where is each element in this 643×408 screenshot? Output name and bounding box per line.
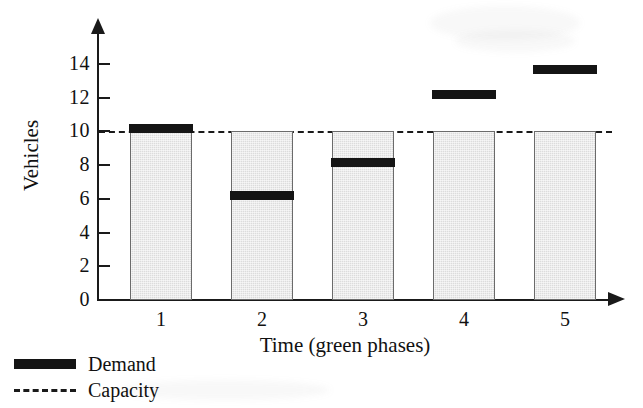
legend-item-capacity: Capacity (14, 378, 244, 404)
y-tick-label: 12 (48, 87, 90, 107)
y-tick-label: 2 (48, 255, 90, 275)
capacity-bar (534, 131, 596, 300)
y-tick-label-wrap: 10 (48, 120, 90, 140)
capacity-bar (231, 131, 293, 300)
x-tick-label: 1 (141, 308, 181, 330)
y-axis-title: Vehicles (21, 106, 42, 206)
x-tick-label: 3 (343, 308, 383, 330)
x-tick-label: 4 (444, 308, 484, 330)
demand-band (533, 65, 597, 74)
demand-band (230, 191, 294, 200)
legend: Demand Capacity (14, 352, 244, 404)
y-tick-mark (99, 164, 110, 166)
y-tick-label: 6 (48, 188, 90, 208)
x-tick-label: 2 (242, 308, 282, 330)
legend-label-capacity: Capacity (88, 378, 159, 403)
capacity-bar (130, 131, 192, 300)
x-axis-arrow-icon (608, 292, 625, 306)
y-tick-label-wrap: 4 (48, 222, 90, 242)
y-tick-mark (99, 198, 110, 200)
capacity-bar (332, 131, 394, 300)
y-tick-mark (99, 232, 110, 234)
capacity-swatch-icon (14, 389, 76, 392)
legend-item-demand: Demand (14, 352, 244, 378)
demand-band (129, 124, 193, 133)
y-tick-label-wrap: 6 (48, 188, 90, 208)
y-tick-label: 8 (48, 154, 90, 174)
y-tick-label: 0 (48, 289, 90, 309)
legend-label-demand: Demand (88, 352, 156, 377)
bar-chart-figure: Vehicles 14121086420 12345 Time (green p… (0, 0, 643, 408)
y-tick-label: 10 (48, 120, 90, 140)
y-tick-label-wrap: 8 (48, 154, 90, 174)
y-tick-label-wrap: 0 (48, 289, 90, 309)
y-tick-label: 4 (48, 222, 90, 242)
y-axis-arrow-icon (91, 18, 105, 34)
y-tick-label-wrap: 14 (48, 53, 90, 73)
demand-band (331, 158, 395, 167)
scan-artifact (455, 30, 575, 52)
y-tick-label-wrap: 12 (48, 87, 90, 107)
y-tick-mark (99, 63, 110, 65)
y-tick-label: 14 (48, 53, 90, 73)
demand-band (432, 90, 496, 99)
demand-swatch-icon (14, 359, 76, 369)
y-tick-mark (99, 265, 110, 267)
y-tick-label-wrap: 2 (48, 255, 90, 275)
x-tick-label: 5 (545, 308, 585, 330)
y-tick-mark (99, 97, 110, 99)
capacity-bar (433, 131, 495, 300)
